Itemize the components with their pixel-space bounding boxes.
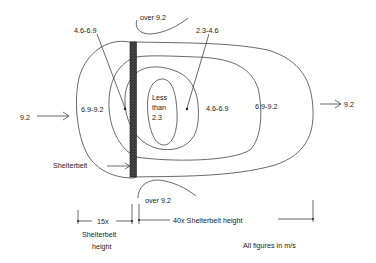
left-pointer-line [97, 34, 125, 108]
right-pointer-dot [186, 108, 188, 110]
label-wind-out: 9.2 [344, 100, 354, 109]
label-dim-left-top: 15x [97, 217, 109, 226]
label-over-bottom: over 9.2 [145, 196, 171, 205]
label-wind-in: 9.2 [20, 113, 30, 122]
label-zone-outer-right: 6.9-9.2 [255, 102, 277, 111]
label-right-pointer: 2.3-4.6 [196, 26, 218, 35]
label-core-2: than [152, 103, 166, 112]
dim-dot [131, 220, 133, 222]
label-shelterbelt: Shelterbelt [53, 161, 87, 170]
diagram-svg: over 9.2 over 9.2 4.6-6.9 2.3-4.6 6.9-9.… [0, 0, 376, 263]
core-contour [148, 79, 178, 145]
label-over-top: over 9.2 [140, 13, 166, 22]
label-zone-left-outer: 6.9-9.2 [81, 105, 103, 114]
label-core-1: Less [152, 93, 168, 102]
label-dim-left-line3: height [92, 242, 112, 251]
left-pointer-dot [124, 108, 126, 110]
label-dim-left-line2: Shelterbelt [82, 230, 116, 239]
outer-contour [76, 41, 313, 178]
label-units-note: All figures in m/s [243, 241, 296, 250]
right-pointer-line [187, 34, 209, 108]
shelterbelt-diagram: over 9.2 over 9.2 4.6-6.9 2.3-4.6 6.9-9.… [0, 0, 376, 263]
shelterbelt-bar [130, 42, 137, 177]
label-core-3: 2.3 [152, 113, 162, 122]
dim-dot [77, 220, 79, 222]
dim-dot [312, 218, 314, 220]
label-zone-mid-right: 4.6-6.9 [206, 104, 228, 113]
label-left-pointer: 4.6-6.9 [74, 26, 96, 35]
dim-dot [138, 219, 140, 221]
label-dim-right: 40x Shelterbelt height [173, 216, 243, 225]
